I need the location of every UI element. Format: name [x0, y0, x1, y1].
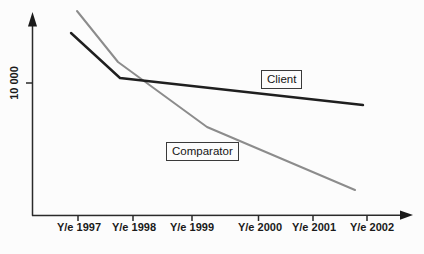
x-axis-arrow-icon — [400, 211, 413, 220]
x-tick-label-1999: Y/e 1999 — [160, 221, 224, 233]
line-chart-figure: 10 000 Y/e 1997 Y/e 1998 Y/e 1999 Y/e 20… — [0, 0, 424, 254]
x-tick-label-2002: Y/e 2002 — [340, 221, 404, 233]
y-axis-tick-label: 10 000 — [8, 62, 20, 104]
comparator-series-label-box: Comparator — [166, 142, 239, 161]
x-tick-label-1998: Y/e 1998 — [102, 221, 166, 233]
client-line — [71, 33, 363, 105]
x-tick-label-2001: Y/e 2001 — [282, 221, 346, 233]
y-axis-arrow-icon — [28, 12, 37, 27]
client-series-label-box: Client — [261, 70, 302, 89]
chart-canvas — [0, 0, 424, 254]
